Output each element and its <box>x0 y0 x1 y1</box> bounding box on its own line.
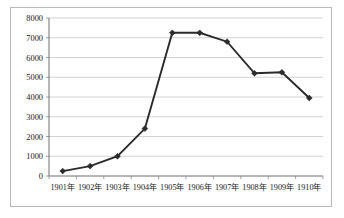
x-axis-tick-label: 1901年 <box>51 182 75 192</box>
y-axis-tick-label: 6000 <box>26 54 43 63</box>
y-axis-tick-label: 7000 <box>26 34 43 43</box>
data-point-marker <box>169 30 175 36</box>
series-line <box>63 33 310 171</box>
y-axis-tick-label: 5000 <box>26 73 43 82</box>
line-chart: 010002000300040005000600070008000 1901年1… <box>11 8 333 208</box>
chart-frame: 010002000300040005000600070008000 1901年1… <box>10 7 332 207</box>
gridlines-group <box>49 18 323 156</box>
x-axis-tick-label: 1908年 <box>242 182 266 192</box>
data-point-marker <box>197 30 203 36</box>
data-point-marker <box>87 163 93 169</box>
x-axis-tick-label: 1910年 <box>297 182 321 192</box>
x-axis-labels-group: 1901年1902年1903年1904年1905年1906年1907年1908年… <box>51 182 322 192</box>
data-markers-group <box>60 30 312 174</box>
series-line-group <box>63 33 310 171</box>
x-axis-tick-label: 1907年 <box>215 182 239 192</box>
y-axis-tick-label: 0 <box>39 172 43 181</box>
x-axis-tick-label: 1904年 <box>133 182 157 192</box>
chart-plot-area: 010002000300040005000600070008000 1901年1… <box>11 8 333 208</box>
y-axis-tick-label: 3000 <box>26 113 43 122</box>
y-axis-tick-label: 2000 <box>26 133 43 142</box>
y-axis-labels-group: 010002000300040005000600070008000 <box>26 14 43 181</box>
x-axis-tick-label: 1903年 <box>105 182 129 192</box>
x-axis-tick-label: 1909年 <box>270 182 294 192</box>
y-axis-tick-label: 4000 <box>26 93 43 102</box>
y-axis-tick-label: 1000 <box>26 152 43 161</box>
data-point-marker <box>60 168 66 174</box>
x-axis-tick-label: 1905年 <box>160 182 184 192</box>
y-axis-tick-label: 8000 <box>26 14 43 23</box>
x-axis-tick-label: 1902年 <box>78 182 102 192</box>
x-axis-tick-label: 1906年 <box>188 182 212 192</box>
